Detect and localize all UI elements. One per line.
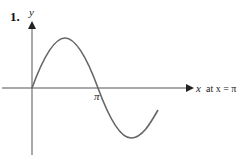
annotation-label: at x = π [206, 83, 236, 94]
sine-graph: y x at x = π π [0, 0, 246, 157]
x-axis-label: x [195, 82, 201, 94]
y-axis-label: y [28, 6, 34, 18]
